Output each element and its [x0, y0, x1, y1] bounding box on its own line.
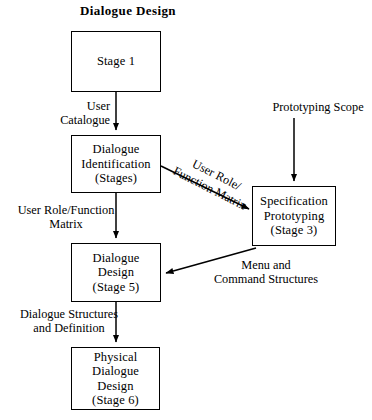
edge-label-prototyping-scope: Prototyping Scope: [265, 100, 371, 114]
diagram-title: Dialogue Design: [80, 3, 176, 19]
edge-label-user-catalogue: User Catalogue: [30, 99, 110, 128]
dialogue-design-stage-5[interactable]: Dialogue Design (Stage 5): [71, 243, 161, 302]
dialogue-identification[interactable]: Dialogue Identification (Stages): [71, 135, 161, 193]
edge-label-dialogue-structures-and-definition: Dialogue Structures and Definition: [3, 307, 135, 336]
edge-label-user-catalogue-line-1: User: [30, 99, 110, 113]
edge-label-prototyping-scope-line-1: Prototyping Scope: [265, 100, 371, 114]
dialogue-identification-line-3: (Stages): [95, 171, 137, 186]
dialogue-identification-line-1: Dialogue: [92, 142, 139, 157]
physical-dialogue-design[interactable]: Physical Dialogue Design (Stage 6): [71, 347, 160, 410]
dialogue-design-line-3: (Stage 5): [93, 280, 140, 295]
edge-label-user-role-function-matrix-line-2: Matrix: [3, 217, 129, 231]
edge-label-dialogue-structures-line-1: Dialogue Structures: [3, 307, 135, 321]
physical-dialogue-design-line-1: Physical: [94, 350, 138, 365]
dialogue-design-line-1: Dialogue: [92, 251, 139, 266]
specification-prototyping-line-2: Prototyping: [264, 209, 325, 224]
edge-label-dialogue-structures-line-2: and Definition: [3, 321, 135, 335]
stage-1-line-1: Stage 1: [97, 54, 135, 69]
edge-label-menu-and-command-line-1: Menu and: [199, 258, 333, 272]
dialogue-identification-line-2: Identification: [81, 157, 150, 172]
edge-label-menu-and-command-line-2: Command Structures: [199, 272, 333, 286]
edge-label-user-catalogue-line-2: Catalogue: [30, 113, 110, 127]
physical-dialogue-design-line-2: Dialogue: [92, 364, 139, 379]
dialogue-design-flowchart: Dialogue Design: [0, 0, 372, 420]
physical-dialogue-design-line-4: (Stage 6): [92, 393, 139, 408]
dialogue-design-line-2: Design: [98, 265, 134, 280]
edge-label-menu-and-command-structures: Menu and Command Structures: [199, 258, 333, 287]
specification-prototyping-line-3: (Stage 3): [271, 223, 318, 238]
physical-dialogue-design-line-3: Design: [97, 379, 133, 394]
stage-1[interactable]: Stage 1: [71, 31, 161, 92]
edge-label-user-role-function-matrix-diagonal: User Role/ Function Matrix: [153, 141, 274, 222]
edge-label-user-role-function-matrix-line-1: User Role/Function: [3, 203, 129, 217]
edge-label-user-role-function-matrix: User Role/Function Matrix: [3, 203, 129, 232]
